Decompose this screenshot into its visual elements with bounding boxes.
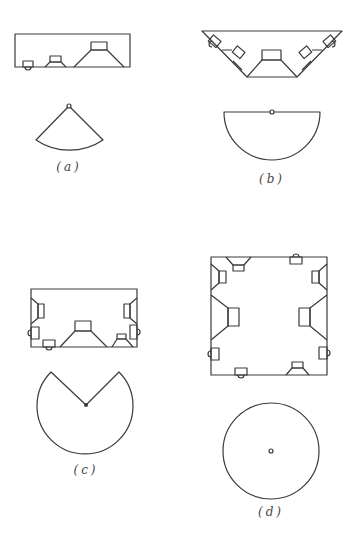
label-b: (b)	[259, 172, 285, 186]
label-a: (a)	[56, 160, 82, 174]
label-c: (c)	[73, 463, 98, 477]
enclosure-d	[208, 254, 330, 378]
pattern-semicircle-b	[224, 110, 320, 160]
pattern-fan-a	[36, 104, 103, 150]
enclosure-c	[28, 289, 140, 350]
pattern-notched-circle-c	[37, 372, 133, 454]
enclosure-b	[202, 31, 342, 77]
enclosure-a	[15, 34, 130, 70]
pattern-circle-d	[223, 403, 319, 499]
label-d: (d)	[258, 505, 284, 519]
